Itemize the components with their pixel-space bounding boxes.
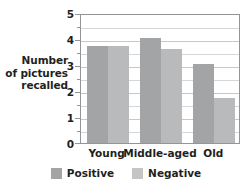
y-axis-minor-tick-mark bbox=[77, 53, 80, 54]
y-axis-tick-label: 2 bbox=[52, 86, 74, 98]
legend-label: Negative bbox=[148, 167, 201, 179]
plot-area bbox=[80, 14, 240, 144]
bar-middle-aged-negative bbox=[161, 49, 182, 143]
chart-legend: PositiveNegative bbox=[0, 167, 252, 179]
y-axis-minor-tick-mark bbox=[77, 79, 80, 80]
y-axis-tick-label: 1 bbox=[52, 112, 74, 124]
legend-item-positive: Positive bbox=[51, 167, 114, 179]
y-axis-tick-mark bbox=[75, 118, 80, 119]
y-axis-minor-tick-mark bbox=[77, 131, 80, 132]
legend-swatch-icon bbox=[51, 168, 62, 179]
bar-chart-figure: Number of pictures recalled PositiveNega… bbox=[0, 0, 252, 186]
y-axis-minor-tick-mark bbox=[77, 105, 80, 106]
bar-young-positive bbox=[87, 46, 108, 144]
y-axis-minor-tick-mark bbox=[77, 27, 80, 28]
y-axis-tick-mark bbox=[75, 40, 80, 41]
legend-label: Positive bbox=[67, 167, 114, 179]
y-axis-tick-mark bbox=[75, 143, 80, 144]
y-axis-tick-mark bbox=[75, 14, 80, 15]
bar-old-positive bbox=[193, 64, 214, 143]
bar-young-negative bbox=[108, 46, 129, 144]
x-axis-tick-label: Old bbox=[163, 147, 252, 159]
legend-swatch-icon bbox=[132, 168, 143, 179]
y-axis-tick-label: 4 bbox=[52, 34, 74, 46]
y-axis-tick-mark bbox=[75, 92, 80, 93]
bar-old-negative bbox=[214, 98, 235, 144]
y-axis-tick-mark bbox=[75, 66, 80, 67]
legend-item-negative: Negative bbox=[132, 167, 201, 179]
y-axis-tick-label: 5 bbox=[52, 8, 74, 20]
y-axis-tick-label: 3 bbox=[52, 60, 74, 72]
bar-group-container bbox=[81, 15, 239, 143]
bar-middle-aged-positive bbox=[140, 38, 161, 143]
